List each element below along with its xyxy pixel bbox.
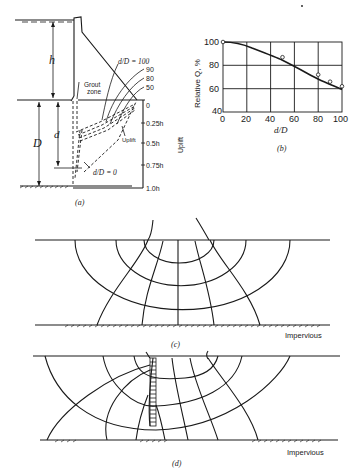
- dD-100-label: d/D = 100: [118, 57, 150, 66]
- dam-toe-c: [196, 218, 209, 240]
- equipotential-1: [144, 240, 214, 263]
- data-points: [221, 40, 344, 88]
- ytick-100: 100: [204, 37, 219, 47]
- ytick-60: 60: [209, 84, 219, 94]
- xtick-100: 100: [333, 114, 348, 124]
- dD-50-label: 50: [146, 84, 154, 91]
- y-axis-label: Relative Q, %: [193, 59, 202, 108]
- xtick-80: 80: [313, 114, 323, 124]
- caption-d: (d): [172, 459, 182, 468]
- dam-toe-d: [207, 351, 209, 359]
- uplift-curve-100: [76, 104, 135, 132]
- dam-heel: [71, 96, 74, 101]
- h-label: h: [49, 53, 55, 67]
- uplift-tick-05: 0.5h: [146, 140, 160, 147]
- xtick-20: 20: [241, 114, 251, 124]
- leader-grout: [77, 82, 79, 99]
- panel-d-flow-net-grouted: Impervious (d): [33, 351, 340, 468]
- caption-a: (a): [75, 198, 85, 207]
- x-axis-label: d/D: [274, 125, 288, 135]
- flow-line-l2: [97, 240, 148, 325]
- uplift-tick-075: 0.75h: [146, 162, 164, 169]
- caption-c: (c): [171, 340, 180, 349]
- flow-line-d-r2: [190, 358, 218, 440]
- equipotential-d3: [45, 356, 290, 430]
- xtick-60: 60: [289, 114, 299, 124]
- stray-dot: [301, 5, 303, 7]
- grout-label-1: Grout: [84, 81, 100, 88]
- uplift-curve-80: [79, 108, 135, 138]
- plot-frame: [223, 42, 342, 112]
- impervious-label-d: Impervious: [287, 448, 324, 457]
- leader-0: [84, 162, 90, 168]
- uplift-tick-0: 0: [146, 102, 150, 109]
- equipotential-d1: [134, 356, 218, 379]
- uplift-tick-025: 0.25h: [146, 120, 164, 127]
- uplift-tick-1: 1.0h: [146, 185, 160, 192]
- xtick-0: 0: [220, 114, 225, 124]
- caption-b: (b): [277, 144, 287, 153]
- dam-heel-d: [146, 352, 150, 358]
- dD-80-label: 80: [146, 75, 154, 82]
- grid-lines: [223, 42, 342, 112]
- d-label: d: [54, 128, 60, 140]
- impervious-label-c: Impervious: [285, 331, 322, 340]
- figure: h D d Grout zone d/D = 100: [0, 0, 361, 475]
- xtick-40: 40: [265, 114, 275, 124]
- uplift-axis-label: Uplift: [177, 137, 185, 153]
- panel-a-dam-uplift: h D d Grout zone d/D = 100: [15, 17, 185, 207]
- grout-curtain-d: [150, 358, 156, 426]
- uplift-curve-label: Uplift: [122, 137, 136, 143]
- flow-line-r2: [210, 240, 260, 325]
- panel-b-chart: 100 80 60 40 0 20 40 60 80 100 d/D Relat…: [193, 5, 348, 153]
- dD-0-label: d/D = 0: [93, 168, 117, 177]
- flow-line-d-l1: [136, 395, 148, 440]
- panel-c-flow-net: Impervious (c): [35, 218, 330, 349]
- grout-label-2: zone: [87, 88, 101, 95]
- ytick-80: 80: [209, 60, 219, 70]
- dD-90-label: 90: [146, 66, 154, 73]
- dam-heel-c: [148, 220, 153, 240]
- D-label: D: [32, 136, 42, 150]
- flow-line-d-c1: [156, 405, 165, 440]
- equipotential-3: [75, 240, 290, 310]
